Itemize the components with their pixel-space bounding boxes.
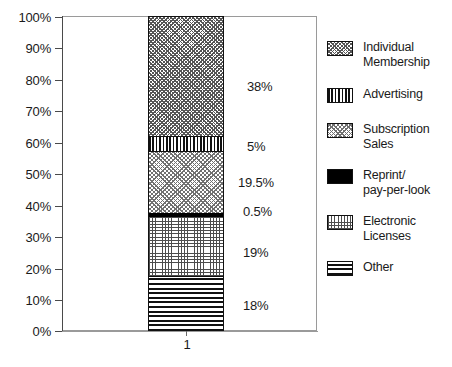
bar-segment-electronic-licenses[interactable] — [149, 217, 223, 276]
y-tick-mark — [55, 237, 62, 238]
y-axis-label-60: 60% — [0, 137, 51, 150]
legend-label-reprint-pay-per-look: Reprint/ pay-per-look — [363, 168, 430, 197]
y-axis-label-90: 90% — [0, 42, 51, 55]
value-label-advertising: 5% — [247, 140, 265, 153]
bar-segment-other[interactable] — [149, 276, 223, 331]
legend-item-reprint-pay-per-look[interactable]: Reprint/ pay-per-look — [327, 168, 430, 197]
y-axis-label-10: 10% — [0, 294, 51, 307]
x-axis-category-label: 1 — [162, 338, 212, 351]
y-axis-label-0: 0% — [0, 325, 51, 338]
value-label-individual-membership: 38% — [247, 80, 272, 93]
bar-segment-subscription-sales[interactable] — [149, 151, 223, 212]
legend-label-other: Other — [363, 260, 393, 275]
legend-label-advertising: Advertising — [363, 87, 423, 102]
legend-item-other[interactable]: Other — [327, 260, 393, 276]
y-axis-label-80: 80% — [0, 74, 51, 87]
y-axis-line — [62, 16, 63, 332]
y-axis-label-50: 50% — [0, 168, 51, 181]
y-axis-label-30: 30% — [0, 231, 51, 244]
y-tick-mark — [55, 17, 62, 18]
y-axis-label-40: 40% — [0, 200, 51, 213]
value-label-reprint-pay-per-look: 0.5% — [243, 205, 272, 218]
legend-swatch-subscription-sales-icon — [327, 123, 353, 138]
legend-label-electronic-licenses: Electronic Licenses — [363, 214, 416, 243]
legend-item-individual-membership[interactable]: Individual Membership — [327, 40, 430, 69]
legend-item-electronic-licenses[interactable]: Electronic Licenses — [327, 214, 416, 243]
bar-segment-individual-membership[interactable] — [149, 16, 223, 136]
y-axis-label-20: 20% — [0, 263, 51, 276]
y-axis-label-100: 100% — [0, 11, 51, 24]
y-tick-mark — [55, 80, 62, 81]
y-tick-mark — [55, 143, 62, 144]
bar-segment-advertising[interactable] — [149, 136, 223, 152]
legend-swatch-individual-membership-icon — [327, 41, 353, 56]
value-label-other: 18% — [243, 299, 268, 312]
legend-swatch-other-icon — [327, 261, 353, 276]
y-tick-mark — [55, 48, 62, 49]
legend-swatch-reprint-pay-per-look-icon — [327, 169, 353, 184]
value-label-subscription-sales: 19.5% — [238, 176, 274, 189]
y-tick-mark — [55, 174, 62, 175]
y-tick-mark — [55, 300, 62, 301]
y-tick-mark — [55, 269, 62, 270]
y-axis-label-70: 70% — [0, 105, 51, 118]
x-axis-line — [62, 331, 318, 332]
legend-swatch-electronic-licenses-icon — [327, 215, 353, 230]
x-tick-mark — [186, 331, 187, 336]
legend-label-individual-membership: Individual Membership — [363, 40, 430, 69]
legend-swatch-advertising-icon — [327, 88, 353, 103]
legend-item-advertising[interactable]: Advertising — [327, 87, 423, 103]
y-tick-mark — [55, 111, 62, 112]
legend-label-subscription-sales: Subscription Sales — [363, 122, 429, 151]
y-tick-mark — [55, 331, 62, 332]
y-tick-mark — [55, 206, 62, 207]
stacked-bar-category-1[interactable] — [148, 16, 224, 331]
value-label-electronic-licenses: 19% — [243, 246, 268, 259]
legend-item-subscription-sales[interactable]: Subscription Sales — [327, 122, 429, 151]
